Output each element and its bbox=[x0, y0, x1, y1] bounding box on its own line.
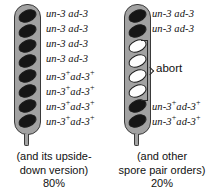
right-genotype-7-ad-sup: + bbox=[196, 98, 201, 107]
left-genotype-3: un-3 ad-3 bbox=[46, 38, 88, 49]
left-caption-line1: (and its upside- bbox=[16, 150, 91, 162]
abort-label: abort bbox=[156, 62, 182, 74]
left-genotype-2: un-3 ad-3 bbox=[46, 23, 88, 34]
left-genotype-6: un-3+ad-3+ bbox=[46, 83, 95, 97]
left-genotype-7-un: un-3 bbox=[46, 101, 66, 112]
left-genotype-3-un: un-3 ad-3 bbox=[46, 38, 88, 49]
right-genotype-2: un-3 ad-3 bbox=[152, 23, 194, 34]
left-genotype-4-un: un-3 ad-3 bbox=[46, 53, 88, 64]
left-genotype-8: un-3+ad-3+ bbox=[46, 113, 95, 127]
left-caption-line2: down version) bbox=[20, 164, 88, 176]
left-genotype-5-un: un-3 bbox=[46, 71, 66, 82]
left-genotype-1-un: un-3 ad-3 bbox=[46, 8, 88, 19]
left-genotype-8-ad: ad-3 bbox=[70, 116, 90, 127]
right-genotype-7-un: un-3 bbox=[152, 101, 172, 112]
right-caption: (and other spore pair orders) 20% bbox=[108, 150, 216, 191]
left-genotype-5-ad-sup: + bbox=[90, 68, 95, 77]
left-percentage: 80% bbox=[0, 177, 108, 191]
right-genotype-8-un: un-3 bbox=[152, 116, 172, 127]
octad-spore-diagram: un-3 ad-3 un-3 ad-3 un-3 ad-3 un-3 ad-3 … bbox=[0, 0, 216, 193]
right-genotype-1-text: un-3 ad-3 bbox=[152, 8, 194, 19]
right-caption-line1: (and other bbox=[137, 150, 187, 162]
left-genotype-6-un: un-3 bbox=[46, 86, 66, 97]
left-caption: (and its upside- down version) 80% bbox=[0, 150, 108, 191]
right-caption-line2: spore pair orders) bbox=[119, 164, 206, 176]
right-genotype-7: un-3+ad-3+ bbox=[152, 98, 201, 112]
left-ascus-stalk bbox=[24, 134, 29, 146]
left-genotype-4: un-3 ad-3 bbox=[46, 53, 88, 64]
right-genotype-1: un-3 ad-3 bbox=[152, 8, 194, 19]
left-genotype-6-ad-sup: + bbox=[90, 83, 95, 92]
left-genotype-5-ad: ad-3 bbox=[70, 71, 90, 82]
left-genotype-6-ad: ad-3 bbox=[70, 86, 90, 97]
left-genotype-7-ad-sup: + bbox=[90, 98, 95, 107]
left-genotype-8-un: un-3 bbox=[46, 116, 66, 127]
left-genotype-8-ad-sup: + bbox=[90, 113, 95, 122]
right-genotype-8: un-3+ad-3+ bbox=[152, 113, 201, 127]
right-genotype-2-text: un-3 ad-3 bbox=[152, 23, 194, 34]
left-genotype-7-ad: ad-3 bbox=[70, 101, 90, 112]
right-percentage: 20% bbox=[108, 177, 216, 191]
right-genotype-8-ad: ad-3 bbox=[176, 116, 196, 127]
right-genotype-7-ad: ad-3 bbox=[176, 101, 196, 112]
left-genotype-5: un-3+ad-3+ bbox=[46, 68, 95, 82]
left-genotype-2-un: un-3 ad-3 bbox=[46, 23, 88, 34]
right-ascus-stalk bbox=[134, 134, 139, 146]
left-genotype-1: un-3 ad-3 bbox=[46, 8, 88, 19]
right-genotype-8-ad-sup: + bbox=[196, 113, 201, 122]
left-genotype-7: un-3+ad-3+ bbox=[46, 98, 95, 112]
